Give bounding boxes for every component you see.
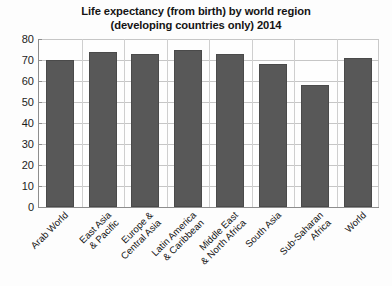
y-axis-tick-label: 50 [4,96,34,108]
y-axis-tick-label: 10 [4,180,34,192]
bar [131,54,159,207]
bar-chart: Life expectancy (from birth) by world re… [0,0,392,286]
y-axis: 80706050403020100 [0,39,34,207]
y-axis-tick-label: 70 [4,54,34,66]
x-axis-labels: Arab WorldEast Asia & PacificEurope & Ce… [38,208,378,286]
bar [216,54,244,207]
gridline-vertical [124,39,125,207]
y-axis-tick-label: 0 [4,201,34,213]
y-axis-tick-mark [38,144,42,145]
gridline-vertical [167,39,168,207]
gridline-vertical [82,39,83,207]
y-axis-tick-mark [38,60,42,61]
bar [344,58,372,207]
y-axis-tick-label: 60 [4,75,34,87]
y-axis-tick-label: 80 [4,33,34,45]
plot-area [38,39,379,208]
y-axis-tick-mark [38,186,42,187]
y-axis-tick-mark [38,39,42,40]
y-axis-tick-label: 20 [4,159,34,171]
y-axis-tick-mark [38,102,42,103]
y-axis-tick-mark [38,81,42,82]
gridline-vertical [337,39,338,207]
bar [301,85,329,207]
bar [89,52,117,207]
bar [174,50,202,208]
y-axis-tick-mark [38,207,42,208]
gridline-vertical [209,39,210,207]
chart-title: Life expectancy (from birth) by world re… [20,5,372,32]
y-axis-tick-label: 40 [4,117,34,129]
bar [259,64,287,207]
y-axis-tick-mark [38,165,42,166]
y-axis-tick-mark [38,123,42,124]
bar [46,60,74,207]
gridline-vertical [294,39,295,207]
gridline-vertical [252,39,253,207]
y-axis-tick-label: 30 [4,138,34,150]
